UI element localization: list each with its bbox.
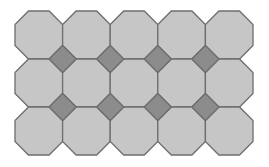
octagon-tiles (15, 11, 253, 155)
octagon-square-tiling (0, 0, 269, 167)
